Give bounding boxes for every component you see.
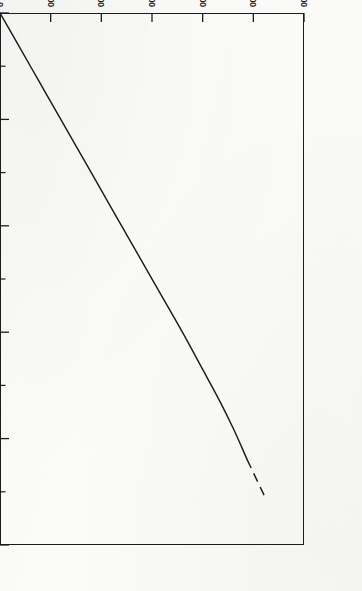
- y-tick-label: 0: [0, 2, 5, 7]
- y-tick-label: 1000: [96, 0, 106, 7]
- plot-canvas: [0, 13, 304, 545]
- y-tick-label: 2000: [198, 0, 208, 7]
- chart-figure: 210022002300240025002600 050010001500200…: [0, 13, 304, 545]
- y-tick-label: 1500: [147, 0, 157, 7]
- data-curve-solid: [0, 13, 247, 460]
- rotated-figure-wrapper: 210022002300240025002600 050010001500200…: [0, 13, 304, 545]
- x-axis-minor-ticks: [0, 66, 6, 492]
- y-tick-label: 2500: [248, 0, 258, 7]
- data-curve-dashed: [247, 460, 265, 498]
- scanned-page: 210022002300240025002600 050010001500200…: [0, 0, 362, 591]
- y-axis-major-ticks: [0, 13, 304, 22]
- y-tick-label: 500: [46, 0, 56, 7]
- y-tick-label: 3000: [299, 0, 309, 7]
